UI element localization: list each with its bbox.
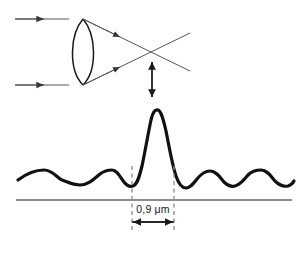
lens-left-surface — [72, 19, 83, 85]
airy-disk-diagram-svg: 0,9 μm — [0, 0, 306, 253]
figure-root: 0,9 μm — [0, 0, 306, 253]
converging-rays-group — [83, 19, 190, 85]
dimension-label: 0,9 μm — [136, 203, 170, 215]
lens-right-surface — [83, 19, 94, 85]
airy-intensity-curve — [18, 110, 294, 188]
incoming-rays-group — [15, 19, 69, 85]
biconvex-lens — [72, 19, 93, 85]
